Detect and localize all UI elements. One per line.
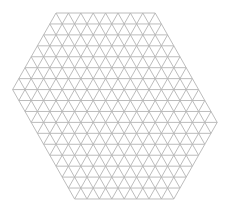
grid-lines — [13, 13, 218, 199]
triangular-grid-diagram — [0, 0, 234, 209]
